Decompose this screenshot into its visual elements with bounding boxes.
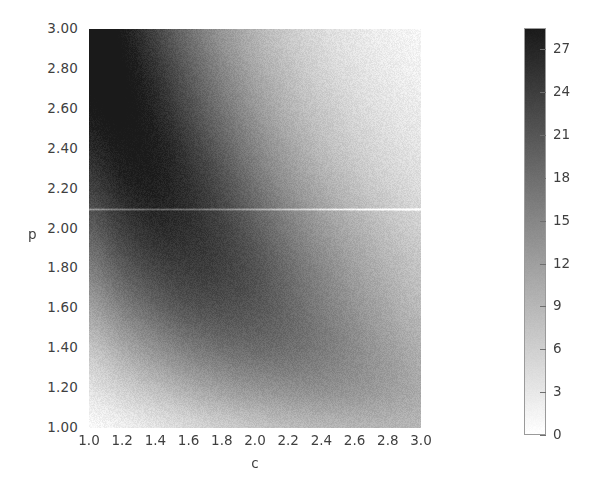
colorbar-canvas [525, 29, 545, 434]
colorbar-tick-label: 12 [553, 257, 570, 271]
colorbar-tick-label: 21 [553, 128, 570, 142]
colorbar-gradient [524, 28, 546, 435]
colorbar-tick-mark [540, 264, 546, 265]
colorbar-tick-mark [540, 221, 546, 222]
colorbar-tick-mark [540, 392, 546, 393]
colorbar-tick-mark [540, 178, 546, 179]
colorbar-tick-mark [540, 306, 546, 307]
colorbar-tick-mark [540, 349, 546, 350]
colorbar-tick-label: 27 [553, 43, 570, 57]
heatmap-figure: 3.002.802.602.402.202.001.801.601.401.20… [0, 0, 594, 497]
colorbar-tick-label: 3 [553, 385, 562, 399]
colorbar-tick-label: 0 [553, 428, 562, 442]
colorbar: 2724211815129630 [0, 0, 594, 497]
colorbar-tick-mark [540, 135, 546, 136]
colorbar-tick-label: 15 [553, 214, 570, 228]
colorbar-tick-label: 24 [553, 86, 570, 100]
colorbar-tick-mark [540, 49, 546, 50]
colorbar-tick-mark [540, 92, 546, 93]
colorbar-tick-label: 9 [553, 300, 562, 314]
colorbar-tick-label: 18 [553, 171, 570, 185]
colorbar-tick-label: 6 [553, 343, 562, 357]
colorbar-tick-mark [540, 435, 546, 436]
